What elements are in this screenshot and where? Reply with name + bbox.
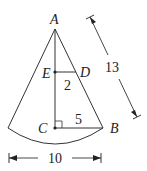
slant-dim-tick-bottom <box>133 115 141 119</box>
label-b: B <box>110 121 119 136</box>
cone-diagram: A E D C B 2 5 13 10 <box>0 0 147 171</box>
arrow-left-icon <box>9 155 17 161</box>
slant-dim-tick-top <box>86 15 94 19</box>
label-d: D <box>79 65 90 80</box>
label-small-radius: 2 <box>64 78 71 93</box>
arrow-down-icon <box>131 110 137 117</box>
arrow-right-icon <box>93 155 101 161</box>
label-diameter: 10 <box>48 151 62 166</box>
cone-base-arc <box>8 128 103 144</box>
arrow-up-icon <box>90 17 96 24</box>
label-radius: 5 <box>75 112 82 127</box>
point-c-dot <box>53 126 56 129</box>
label-a: A <box>49 12 59 27</box>
label-e: E <box>41 66 51 81</box>
point-e-dot <box>53 70 56 73</box>
label-slant-height: 13 <box>105 60 119 75</box>
label-c: C <box>38 121 48 136</box>
